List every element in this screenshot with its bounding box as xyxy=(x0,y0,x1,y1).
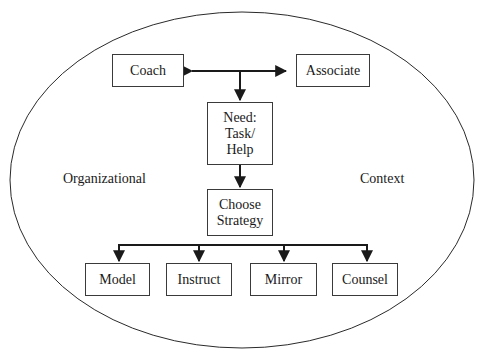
choose-strategy-box: Choose Strategy xyxy=(207,189,273,236)
coach-box: Coach xyxy=(112,54,184,87)
strategy-mirror-box: Mirror xyxy=(250,263,317,296)
associate-box: Associate xyxy=(296,54,370,87)
strategy-model-box: Model xyxy=(85,263,150,296)
strategy-instruct-box: Instruct xyxy=(166,263,232,296)
context-label: Context xyxy=(360,171,404,187)
organizational-label: Organizational xyxy=(63,171,146,187)
need-box: Need: Task/ Help xyxy=(207,102,273,165)
strategy-counsel-box: Counsel xyxy=(332,263,398,296)
